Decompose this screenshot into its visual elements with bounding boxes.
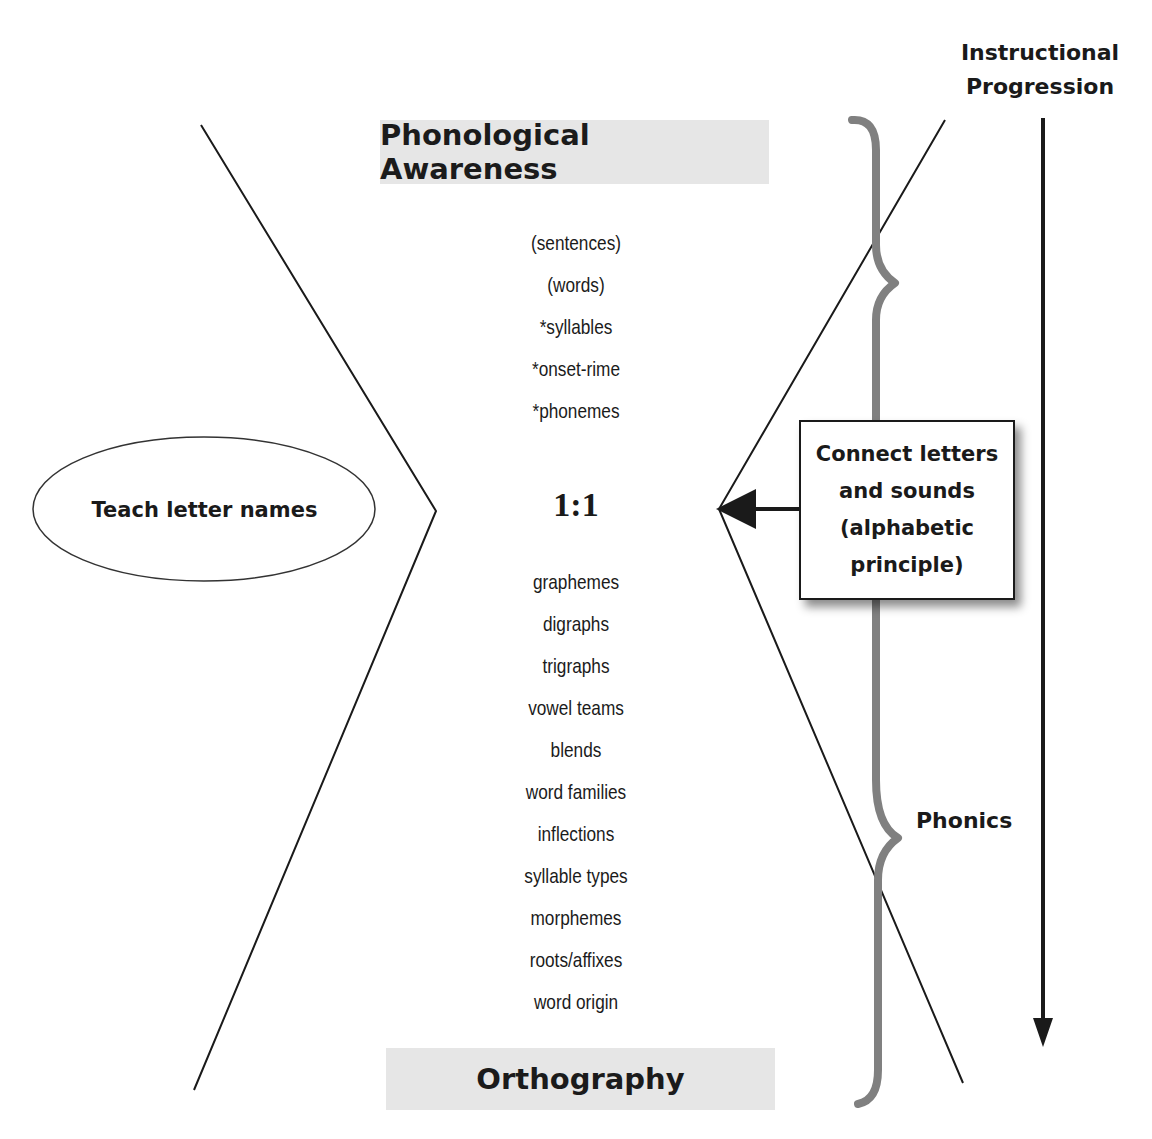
box-line: and sounds — [839, 473, 975, 510]
box-line: (alphabetic — [840, 510, 974, 547]
list-item: (words) — [494, 264, 658, 306]
phonological-awareness-title: Phonological Awareness — [380, 120, 769, 184]
box-line: principle) — [850, 547, 963, 584]
list-item: (sentences) — [494, 222, 658, 264]
list-item: *phonemes — [494, 390, 658, 432]
list-item: syllable types — [494, 855, 658, 897]
label-line: Instructional — [950, 36, 1130, 70]
list-item: inflections — [494, 813, 658, 855]
list-item: *syllables — [494, 306, 658, 348]
list-item: *onset-rime — [494, 348, 658, 390]
list-item: roots/affixes — [494, 939, 658, 981]
teach-letter-names-label: Teach letter names — [33, 437, 376, 582]
list-item: graphemes — [494, 561, 658, 603]
alphabetic-principle-box: Connect letters and sounds (alphabetic p… — [799, 420, 1015, 600]
list-item: word origin — [494, 981, 658, 1023]
phonological-awareness-list: (sentences) (words) *syllables *onset-ri… — [476, 222, 676, 432]
list-item: trigraphs — [494, 645, 658, 687]
instructional-progression-label: Instructional Progression — [950, 36, 1130, 104]
orthography-title: Orthography — [386, 1048, 775, 1110]
progression-arrowhead-icon — [1033, 1018, 1053, 1047]
box-line: Connect letters — [816, 436, 998, 473]
list-item: digraphs — [494, 603, 658, 645]
label-line: Progression — [950, 70, 1130, 104]
one-to-one-label: 1:1 — [476, 486, 676, 524]
phonics-label: Phonics — [916, 808, 1012, 833]
list-item: vowel teams — [494, 687, 658, 729]
list-item: morphemes — [494, 897, 658, 939]
orthography-list: graphemes digraphs trigraphs vowel teams… — [476, 561, 676, 1023]
list-item: word families — [494, 771, 658, 813]
left-chevron-line — [194, 125, 436, 1090]
list-item: blends — [494, 729, 658, 771]
right-chevron-line — [719, 120, 963, 1083]
